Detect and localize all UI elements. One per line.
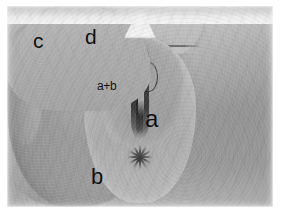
annotation-label-a: a [145,107,158,131]
annotation-label-c: c [33,30,44,51]
annotation-label-a-plus-b: a+b [97,80,116,92]
annotation-label-b: b [91,166,103,188]
figure-root: c d a+b a b [0,0,283,220]
clinical-photograph [7,6,273,207]
plate-edge-fade [7,6,273,207]
annotation-label-d: d [85,26,97,47]
